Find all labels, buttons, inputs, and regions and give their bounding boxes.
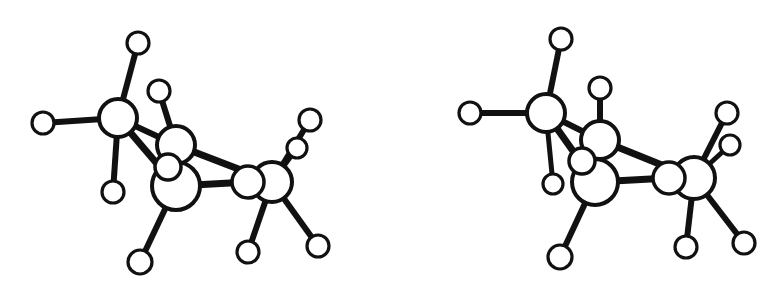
hydrogen-atom-R-H2	[459, 102, 481, 124]
hydrogen-atom-L-H4	[102, 181, 124, 203]
molecule-figure	[0, 0, 780, 287]
molecule-canvas	[0, 0, 780, 287]
carbon-atom-R-C6	[569, 148, 595, 174]
hydrogen-atom-L-H5	[128, 250, 152, 274]
carbon-atom-R-C5	[653, 162, 685, 194]
hydrogen-atom-R-H8	[716, 102, 738, 124]
hydrogen-atom-R-H1	[550, 28, 572, 50]
hydrogen-atom-L-H3	[148, 80, 170, 102]
hydrogen-atom-R-H5	[548, 245, 572, 269]
carbon-atom-L-C5	[232, 166, 264, 198]
hydrogen-atom-R-H7	[733, 232, 755, 254]
hydrogen-atom-L-H1	[127, 32, 149, 54]
carbon-atom-L-C6	[155, 154, 181, 180]
carbon-atom-L-C1	[99, 99, 137, 137]
hydrogen-atom-L-H9	[287, 138, 307, 158]
hydrogen-atom-R-H9	[720, 135, 740, 155]
hydrogen-atom-L-H6	[237, 241, 259, 263]
hydrogen-atom-R-H6	[675, 236, 697, 258]
hydrogen-atom-R-H4	[543, 174, 563, 194]
hydrogen-atom-R-H3	[589, 77, 611, 99]
hydrogen-atom-L-H8	[299, 109, 321, 131]
carbon-atom-R-C1	[527, 94, 565, 132]
hydrogen-atom-L-H7	[307, 235, 329, 257]
hydrogen-atom-L-H2	[32, 112, 54, 134]
